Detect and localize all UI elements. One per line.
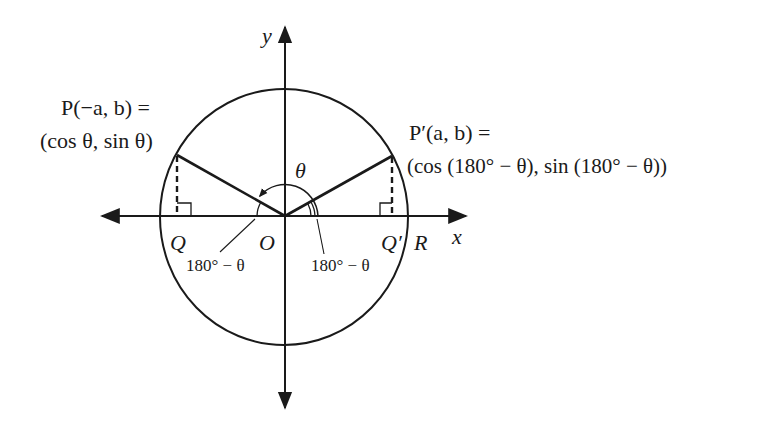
point-P-prime-label: P′(a, b) = xyxy=(409,122,490,144)
point-O-label: O xyxy=(259,232,275,254)
point-Q-prime-label: Q′ xyxy=(381,232,402,254)
leader-left-angle xyxy=(220,219,255,252)
point-P-prime-coords: (cos (180° − θ), sin (180° − θ)) xyxy=(407,156,667,177)
y-axis-label: y xyxy=(262,25,272,47)
point-P-coords: (cos θ, sin θ) xyxy=(40,130,153,152)
diagram-canvas xyxy=(0,0,764,431)
angle-theta-label: θ xyxy=(295,160,306,182)
right-reference-angle-label: 180° − θ xyxy=(311,257,370,274)
theta-arc xyxy=(260,185,318,216)
right-angle-marker-Q xyxy=(177,203,191,216)
point-R-label: R xyxy=(414,232,427,254)
left-reference-arc xyxy=(257,202,261,216)
x-axis-label: x xyxy=(452,226,462,248)
segment-OP xyxy=(177,155,285,216)
point-P-name: P(−a, b) = xyxy=(61,95,150,120)
point-P-label: P(−a, b) = xyxy=(61,97,150,119)
left-reference-angle-label: 180° − θ xyxy=(186,257,245,274)
leader-right-angle xyxy=(317,219,324,254)
right-angle-marker-Q-prime xyxy=(380,203,392,216)
right-reference-arc-inner xyxy=(308,204,311,216)
unit-circle-diagram: y x P(−a, b) = (cos θ, sin θ) P′(a, b) =… xyxy=(0,0,764,431)
point-Q-label: Q xyxy=(170,232,186,254)
